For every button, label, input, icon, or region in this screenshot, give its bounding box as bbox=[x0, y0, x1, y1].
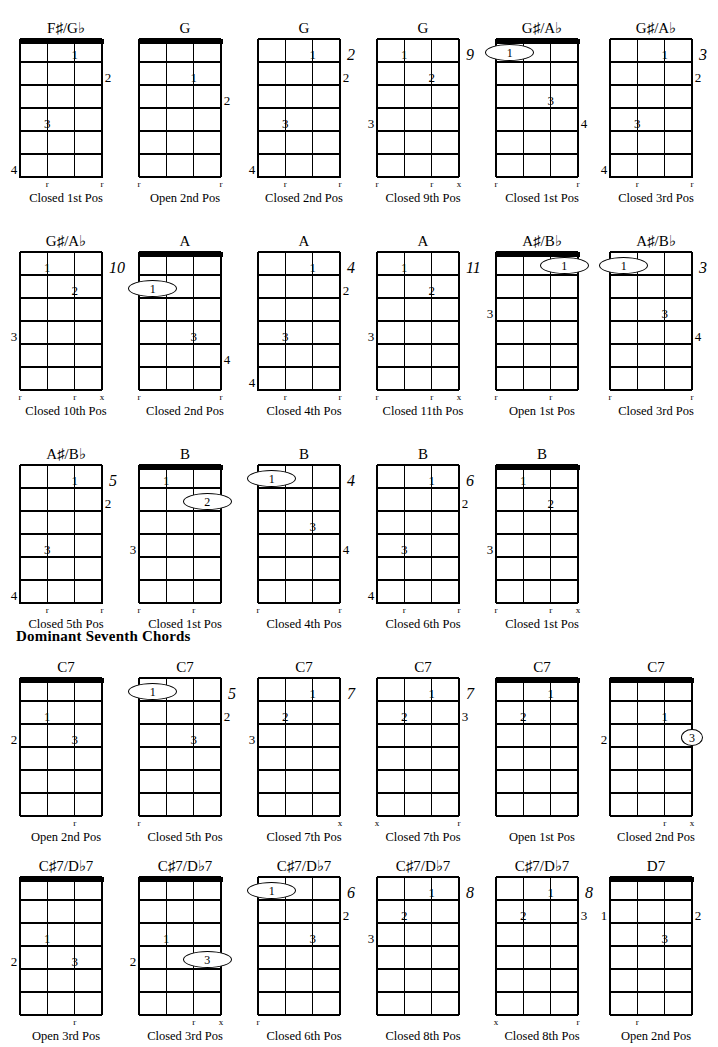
fret-line bbox=[258, 464, 340, 466]
open-string-marker: r bbox=[70, 393, 80, 402]
fret-line bbox=[258, 876, 340, 878]
open-string-marker: r bbox=[15, 393, 25, 402]
fret-line bbox=[496, 968, 578, 970]
finger-bar bbox=[495, 922, 579, 925]
finger-bar bbox=[46, 556, 103, 559]
finger-bar bbox=[550, 700, 579, 703]
start-fret-number: 5 bbox=[109, 473, 117, 489]
fret-line bbox=[377, 677, 459, 679]
fret-line bbox=[139, 153, 221, 155]
chord-name-text: B bbox=[418, 446, 428, 462]
chord-name-text: B bbox=[180, 446, 190, 462]
fret-line bbox=[377, 792, 459, 794]
fretboard-grid: 123 bbox=[377, 39, 459, 177]
barre-finger-number: 1 bbox=[486, 47, 533, 59]
fret-line bbox=[258, 991, 340, 993]
barre-finger-number: 3 bbox=[682, 732, 702, 744]
start-fret-number: 4 bbox=[347, 260, 355, 276]
chord-name-text: C7 bbox=[57, 659, 75, 675]
fret-line bbox=[496, 38, 578, 40]
chord-diagram: A♯/B♭3413rrClosed 3rd Pos bbox=[596, 233, 716, 429]
chord-position-caption: Closed 1st Pos bbox=[474, 618, 610, 631]
fret-line bbox=[258, 107, 340, 109]
finger-bar bbox=[46, 274, 103, 277]
start-fret-number: 7 bbox=[347, 686, 355, 702]
fretboard-grid: 123 bbox=[496, 465, 578, 603]
fret-line bbox=[377, 366, 459, 368]
string-tick bbox=[550, 504, 551, 511]
fret-line bbox=[496, 251, 578, 253]
start-fret-number: 4 bbox=[347, 473, 355, 489]
fret-line bbox=[496, 153, 578, 155]
open-string-marker: r bbox=[573, 180, 583, 189]
string-tick bbox=[257, 740, 258, 747]
chord-name-text: A♯/B♭ bbox=[522, 233, 562, 249]
finger-bar bbox=[431, 84, 460, 87]
open-string-marker: r bbox=[573, 1018, 583, 1027]
chord-title: C7 bbox=[6, 659, 126, 675]
fret-line bbox=[139, 320, 221, 322]
chord-diagram: C72315rClosed 5th Pos bbox=[125, 659, 245, 855]
open-string-marker: r bbox=[399, 606, 409, 615]
finger-bar bbox=[522, 723, 579, 726]
chord-title: C♯7/D♭7 bbox=[244, 858, 364, 874]
fret-line bbox=[258, 769, 340, 771]
finger-bar bbox=[74, 487, 103, 490]
fret-line bbox=[258, 84, 340, 86]
fret-line bbox=[20, 464, 102, 466]
string-tick bbox=[458, 717, 459, 724]
fretboard-grid: 1234 bbox=[20, 39, 102, 177]
string-tick bbox=[74, 55, 75, 62]
chord-name-text: G♯/A♭ bbox=[636, 20, 676, 36]
string-tick bbox=[74, 291, 75, 298]
finger-bar bbox=[664, 61, 693, 64]
section-heading: Dominant Seventh Chords bbox=[16, 628, 191, 645]
fret-line bbox=[139, 251, 221, 253]
fret-line bbox=[258, 677, 340, 679]
open-string-marker: r bbox=[253, 1018, 263, 1027]
fretboard-grid: 123 bbox=[258, 678, 340, 816]
chord-diagram: A12311rrxClosed 11th Pos bbox=[363, 233, 483, 429]
chord-diagram: D7123rOpen 2nd Pos bbox=[596, 858, 716, 1047]
barre-indicator: 3 bbox=[681, 729, 703, 746]
muted-string-marker: x bbox=[372, 819, 382, 828]
finger-bar bbox=[46, 723, 103, 726]
string-tick bbox=[220, 717, 221, 724]
chord-diagram: G♯/A♭12310rrxClosed 10th Pos bbox=[6, 233, 126, 429]
barre-indicator: 1 bbox=[485, 44, 534, 61]
string-tick bbox=[339, 291, 340, 298]
start-fret-number: 3 bbox=[699, 47, 707, 63]
fret-line bbox=[258, 792, 340, 794]
finger-bar bbox=[312, 945, 341, 948]
finger-bar bbox=[495, 556, 579, 559]
chord-diagram: C71237xClosed 7th Pos bbox=[244, 659, 364, 855]
chord-title: A♯/B♭ bbox=[482, 233, 602, 249]
open-string-marker: r bbox=[216, 180, 226, 189]
fret-line bbox=[20, 153, 102, 155]
string-tick bbox=[312, 939, 313, 946]
string-tick bbox=[138, 962, 139, 969]
fret-line bbox=[610, 876, 692, 878]
finger-bar bbox=[257, 176, 341, 179]
muted-string-marker: x bbox=[687, 819, 697, 828]
open-string-marker: r bbox=[253, 606, 263, 615]
fret-line bbox=[496, 815, 578, 817]
fretboard-grid: 231 bbox=[258, 877, 340, 1015]
chord-title: C♯7/D♭7 bbox=[482, 858, 602, 874]
fretboard-grid: 123 bbox=[20, 678, 102, 816]
finger-bar bbox=[312, 700, 341, 703]
chord-name-text: C7 bbox=[414, 659, 432, 675]
fretboard-grid: 1234 bbox=[377, 465, 459, 603]
fretboard-grid: 31 bbox=[496, 252, 578, 390]
string-tick bbox=[19, 337, 20, 344]
open-string-marker: r bbox=[454, 819, 464, 828]
fret-line bbox=[610, 769, 692, 771]
chord-position-caption: Closed 3rd Pos bbox=[588, 405, 718, 418]
fret-line bbox=[139, 876, 221, 878]
chord-diagram: A12344rrClosed 4th Pos bbox=[244, 233, 364, 429]
chord-title: F♯/G♭ bbox=[6, 20, 126, 36]
finger-bar bbox=[257, 746, 341, 749]
start-fret-number: 7 bbox=[466, 686, 474, 702]
finger-bar bbox=[609, 922, 693, 925]
fret-line bbox=[20, 579, 102, 581]
